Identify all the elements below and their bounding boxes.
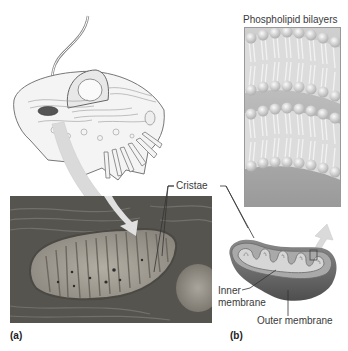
outer-membrane-label: Outer membrane [257, 315, 333, 326]
inner-membrane-leader-line [240, 268, 280, 292]
inner-membrane-label-line1: Inner [218, 285, 241, 296]
phospholipid-bilayer-illustration [244, 27, 341, 207]
inner-membrane-label-line2: membrane [218, 297, 266, 308]
panel-label-b: (b) [230, 330, 243, 341]
panel-label-a: (a) [10, 330, 22, 341]
phospholipid-bilayers-label: Phospholipid bilayers [243, 14, 338, 25]
outer-membrane-leader-line [286, 290, 290, 316]
